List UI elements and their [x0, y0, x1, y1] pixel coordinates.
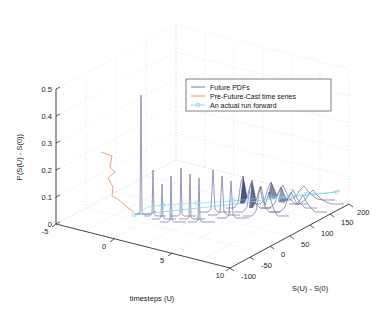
figure-3d-waterfall-plot: 0 0.1 0.2 0.3 0.4 0.5 P(S(U) - S(0)) -5 …	[0, 0, 380, 322]
z-tick-label-3: 0.3	[42, 139, 52, 148]
y-tick-label-3: 50	[301, 240, 309, 249]
figure-background	[0, 0, 380, 322]
z-tick-label-5: 0.5	[42, 85, 52, 94]
y-tick-label-4: 100	[321, 229, 334, 238]
y-tick-label-6: 200	[357, 208, 370, 217]
y-axis-label: S(U) - S(0)	[292, 284, 329, 293]
x-tick-label-2: 5	[160, 256, 164, 265]
z-axis-label: P(S(U) - S(0))	[15, 133, 24, 180]
z-tick-label-4: 0.4	[42, 112, 52, 121]
legend-label-future-pdfs: Future PDFs	[210, 84, 250, 91]
x-tick-label-1: 0	[102, 242, 106, 251]
z-tick-label-0: 0	[48, 220, 52, 229]
y-tick-label-5: 150	[341, 218, 354, 227]
legend[interactable]: Future PDFs Pre-Future-Cast time series …	[186, 79, 331, 111]
x-tick-label-0: -5	[42, 227, 49, 236]
z-tick-label-2: 0.2	[42, 166, 52, 175]
x-axis-label: timesteps (U)	[130, 294, 175, 303]
plot-canvas: 0 0.1 0.2 0.3 0.4 0.5 P(S(U) - S(0)) -5 …	[0, 0, 380, 322]
legend-label-pre-future-cast: Pre-Future-Cast time series	[210, 93, 296, 100]
y-tick-label-1: -50	[261, 261, 272, 270]
y-tick-label-2: 0	[281, 250, 285, 259]
z-tick-label-1: 0.1	[42, 193, 52, 202]
x-tick-label-3: 10	[216, 271, 224, 280]
legend-label-actual-run: An actual run forward	[210, 102, 277, 109]
y-tick-label-0: -100	[241, 272, 256, 281]
